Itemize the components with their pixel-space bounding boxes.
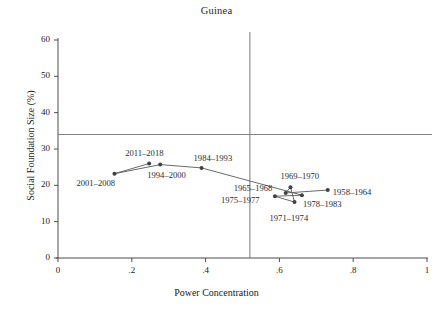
data-point	[284, 191, 288, 195]
data-point	[147, 162, 151, 166]
point-label: 1984–1993	[194, 153, 233, 163]
point-label: 1978–1983	[303, 199, 342, 209]
point-label: 2001–2008	[76, 178, 115, 188]
y-tick-label: 50	[28, 70, 50, 80]
data-point	[273, 194, 277, 198]
data-point	[158, 163, 162, 167]
point-label: 1958–1964	[333, 187, 372, 197]
chart-title: Guinea	[0, 5, 433, 16]
point-label: 1969–1970	[280, 171, 319, 181]
data-point	[288, 185, 292, 189]
data-point	[293, 200, 297, 204]
y-tick-label: 20	[28, 179, 50, 189]
x-tick-label: 0	[43, 265, 73, 275]
y-tick-label: 60	[28, 34, 50, 44]
y-tick-label: 0	[28, 252, 50, 262]
x-tick-label: .6	[264, 265, 294, 275]
y-tick-label: 30	[28, 143, 50, 153]
point-label: 1975–1977	[221, 195, 260, 205]
data-point	[300, 193, 304, 197]
x-tick-label: .2	[117, 265, 147, 275]
chart-container: Guinea Power Concentration Social Founda…	[0, 0, 433, 309]
x-tick-label: .8	[338, 265, 368, 275]
x-tick-label: 1	[412, 265, 433, 275]
point-label: 1994–2000	[147, 170, 186, 180]
point-label: 1971–1974	[270, 213, 309, 223]
x-axis-label: Power Concentration	[0, 287, 433, 298]
x-tick-label: .4	[191, 265, 221, 275]
data-point	[200, 166, 204, 170]
data-point	[112, 172, 116, 176]
data-point	[326, 188, 330, 192]
y-tick-label: 40	[28, 107, 50, 117]
y-tick-label: 10	[28, 216, 50, 226]
point-label: 1965–1968	[234, 183, 273, 193]
point-label: 2011–2018	[125, 148, 163, 158]
